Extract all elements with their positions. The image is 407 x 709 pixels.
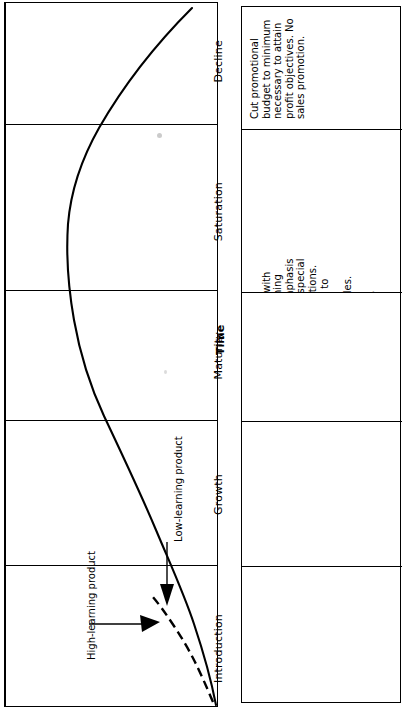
low-learning-curve: [152, 596, 213, 702]
low-learning-arrowhead: [160, 584, 174, 606]
cell-body-decline: Cut promotional budget to minimum necess…: [249, 15, 307, 119]
promotion-strategy-table: Cut promotional budget to minimum necess…: [241, 6, 401, 703]
callout-high-learning-product: High-learning product: [86, 588, 97, 660]
time-axis-label: Time: [214, 325, 227, 355]
table-row: Mass media emphasis continued. Appeals m…: [242, 293, 402, 421]
cell-body-saturation: Develop more brand identification perhap…: [249, 255, 377, 292]
sales-curve-svg: [4, 2, 218, 707]
table-row: High-Learning More emphasis on brand pre…: [242, 422, 402, 566]
high-learning-arrowhead: [140, 615, 160, 632]
table-row: Cut promotional budget to minimum necess…: [242, 7, 402, 129]
callout-low-learning-product: Low-learning product: [173, 432, 184, 542]
table-row: Develop more brand identification perhap…: [242, 130, 402, 292]
table-row: High-Learning Emphasis is on product con…: [242, 567, 402, 702]
life-cycle-chart: Decline Saturation Maturity Growth Intro…: [4, 2, 218, 707]
product-life-cycle-figure: Decline Saturation Maturity Growth Intro…: [0, 0, 407, 709]
